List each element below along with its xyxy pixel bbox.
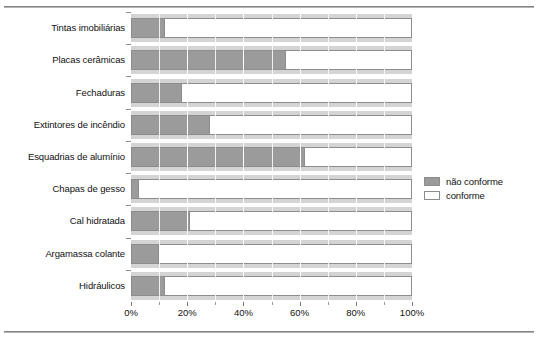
legend-item-conforme: conforme <box>424 189 532 202</box>
bar-segment-nao-conforme <box>131 147 305 167</box>
chart-figure: 0%20%40%60%80%100% não conforme conforme… <box>0 0 538 343</box>
category-label: Chapas de gesso <box>1 184 125 194</box>
category-label: Tintas imobiliárias <box>1 23 125 33</box>
bar-segment-nao-conforme <box>131 179 139 199</box>
category-label: Hidráulicos <box>1 281 125 291</box>
x-axis-tick-minor <box>328 302 329 305</box>
category-label: Fechaduras <box>1 88 125 98</box>
chart-plot-area: 0%20%40%60%80%100% não conforme conforme… <box>0 12 538 328</box>
category-label: Esquadrias de alumínio <box>1 152 125 162</box>
y-axis-tick <box>126 12 131 13</box>
x-axis-tick-label: 100% <box>400 307 424 318</box>
bottom-divider-rule <box>4 331 534 333</box>
bar-segment-nao-conforme <box>131 50 286 70</box>
bars-container <box>131 12 412 302</box>
x-axis-tick <box>187 302 188 306</box>
top-divider-rule <box>4 6 534 8</box>
y-axis-tick <box>126 173 131 174</box>
x-axis-tick <box>412 302 413 306</box>
x-axis-tick <box>300 302 301 306</box>
y-axis-tick <box>126 44 131 45</box>
gridline-minor <box>272 12 273 302</box>
gridline <box>243 12 244 302</box>
x-axis-tick-label: 60% <box>290 307 309 318</box>
gridline-minor <box>215 12 216 302</box>
bar-segment-nao-conforme <box>131 211 190 231</box>
gridline <box>356 12 357 302</box>
category-label: Cal hidratada <box>1 216 125 226</box>
legend-item-nao-conforme: não conforme <box>424 175 532 188</box>
x-axis-tick-label: 20% <box>178 307 197 318</box>
gridline <box>187 12 188 302</box>
chart-legend: não conforme conforme <box>424 175 532 203</box>
bar-segment-nao-conforme <box>131 115 210 135</box>
x-axis-tick <box>243 302 244 306</box>
gridline <box>300 12 301 302</box>
y-axis-tick <box>126 270 131 271</box>
legend-label-conforme: conforme <box>446 190 485 201</box>
y-axis-tick <box>126 205 131 206</box>
y-axis-tick <box>126 76 131 77</box>
x-axis-tick-label: 80% <box>346 307 365 318</box>
bar-segment-nao-conforme <box>131 83 182 103</box>
legend-swatch-nao-conforme <box>424 177 440 186</box>
y-axis-tick <box>126 109 131 110</box>
x-axis-tick <box>131 302 132 306</box>
x-axis-tick-minor <box>272 302 273 305</box>
gridline-minor <box>384 12 385 302</box>
category-label: Argamassa colante <box>1 249 125 259</box>
legend-label-nao-conforme: não conforme <box>446 176 503 187</box>
y-axis-tick <box>126 238 131 239</box>
x-axis-tick-label: 0% <box>124 307 138 318</box>
bar-segment-nao-conforme <box>131 244 159 264</box>
category-label: Placas cerâmicas <box>1 55 125 65</box>
x-axis-tick-minor <box>384 302 385 305</box>
gridline-minor <box>159 12 160 302</box>
y-axis-tick <box>126 141 131 142</box>
gridline-minor <box>328 12 329 302</box>
x-axis-tick-minor <box>159 302 160 305</box>
x-axis-tick-minor <box>215 302 216 305</box>
category-label: Extintores de incêndio <box>1 120 125 130</box>
x-axis-tick-label: 40% <box>234 307 253 318</box>
legend-swatch-conforme <box>424 191 440 200</box>
x-axis-tick <box>356 302 357 306</box>
